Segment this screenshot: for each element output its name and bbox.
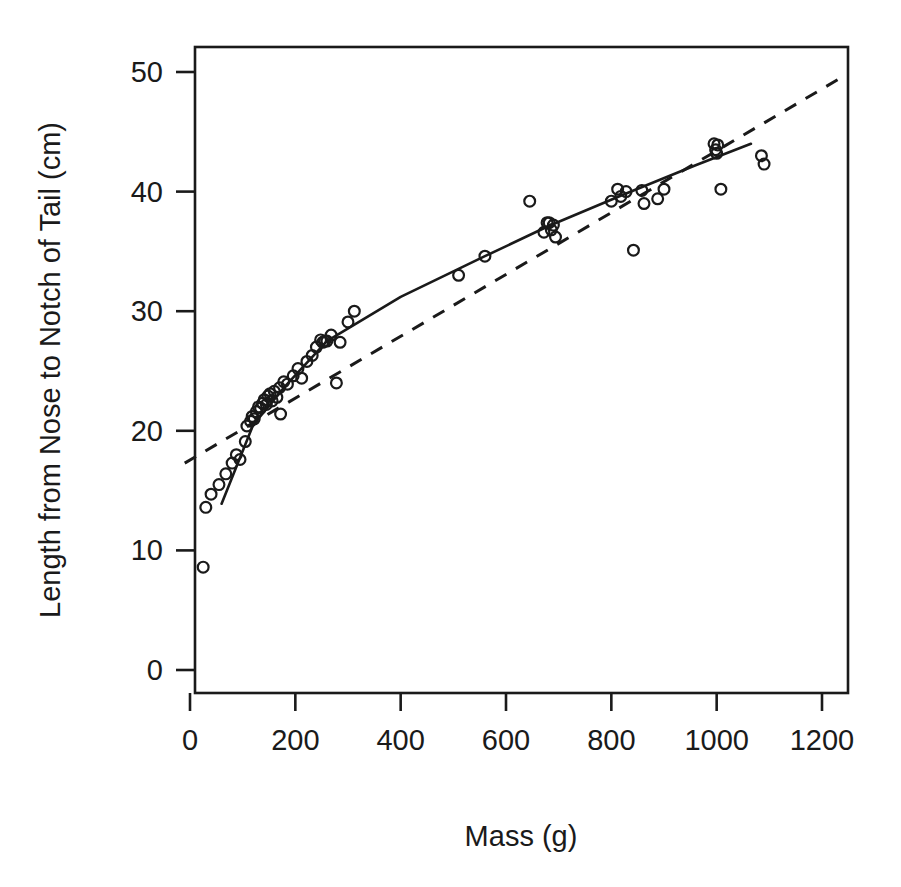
data-point bbox=[349, 306, 360, 317]
x-tick-label: 400 bbox=[376, 724, 424, 756]
y-tick-label: 0 bbox=[147, 654, 163, 686]
y-tick-label: 20 bbox=[131, 415, 163, 447]
data-point bbox=[343, 317, 354, 328]
data-point bbox=[214, 479, 225, 490]
segmented-fit-path bbox=[222, 144, 751, 504]
data-point bbox=[275, 409, 286, 420]
x-axis-ticks: 020040060080010001200 bbox=[182, 693, 854, 756]
linear-fit-path bbox=[185, 74, 847, 463]
x-tick-label: 200 bbox=[271, 724, 319, 756]
x-axis-title: Mass (g) bbox=[465, 820, 578, 852]
y-axis-ticks: 01020304050 bbox=[131, 56, 195, 686]
x-tick-label: 1000 bbox=[684, 724, 749, 756]
chart-figure: 020040060080010001200 01020304050 Mass (… bbox=[0, 0, 901, 887]
x-tick-label: 800 bbox=[587, 724, 635, 756]
scatter-points bbox=[198, 138, 770, 572]
data-point bbox=[659, 184, 670, 195]
data-point bbox=[331, 378, 342, 389]
y-tick-label: 50 bbox=[131, 56, 163, 88]
data-point bbox=[198, 562, 209, 573]
data-point bbox=[628, 245, 639, 256]
y-tick-label: 40 bbox=[131, 176, 163, 208]
segmented-fit-line bbox=[222, 144, 751, 504]
data-point bbox=[715, 184, 726, 195]
data-point bbox=[335, 337, 346, 348]
y-tick-label: 30 bbox=[131, 295, 163, 327]
data-point bbox=[524, 196, 535, 207]
scatter-plot-svg: 020040060080010001200 01020304050 Mass (… bbox=[0, 0, 901, 887]
linear-fit-line bbox=[185, 74, 847, 463]
y-axis-title: Length from Nose to Notch of Tail (cm) bbox=[34, 122, 66, 618]
data-point bbox=[200, 502, 211, 513]
data-point bbox=[206, 489, 217, 500]
data-point bbox=[220, 468, 231, 479]
x-tick-label: 600 bbox=[482, 724, 530, 756]
data-point bbox=[639, 198, 650, 209]
data-point bbox=[453, 270, 464, 281]
x-tick-label: 0 bbox=[182, 724, 198, 756]
x-tick-label: 1200 bbox=[790, 724, 855, 756]
y-tick-label: 10 bbox=[131, 534, 163, 566]
